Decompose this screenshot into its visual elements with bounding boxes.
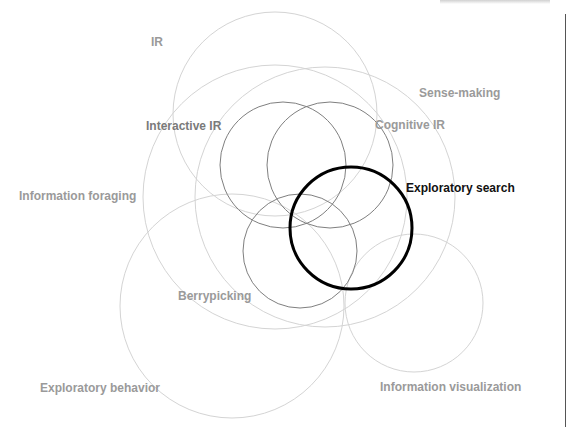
circle-sense-making [195, 67, 455, 327]
label-exploratory-search: Exploratory search [406, 181, 515, 195]
label-berrypicking: Berrypicking [178, 289, 251, 303]
circle-information-visualization [345, 234, 483, 372]
label-cognitive-ir: Cognitive IR [375, 118, 445, 132]
circle-berrypicking [243, 194, 357, 308]
label-ir: IR [151, 35, 163, 49]
circle-exploratory-search [290, 167, 412, 289]
label-sense-making: Sense-making [419, 86, 500, 100]
venn-diagram [0, 0, 569, 427]
label-information-visualization: Information visualization [380, 380, 521, 394]
circle-ir [173, 12, 377, 216]
label-information-foraging: Information foraging [19, 189, 136, 203]
label-interactive-ir: Interactive IR [146, 119, 221, 133]
label-exploratory-behavior: Exploratory behavior [40, 381, 160, 395]
